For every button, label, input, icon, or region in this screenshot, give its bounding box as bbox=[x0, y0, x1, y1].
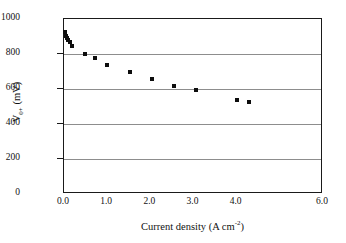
data-point bbox=[235, 98, 239, 102]
y-axis-tick-mark bbox=[57, 158, 63, 159]
data-point bbox=[172, 84, 176, 88]
x-axis-tick-label: 2.0 bbox=[131, 196, 167, 206]
x-axis-tick-label: 3.0 bbox=[175, 196, 211, 206]
data-point bbox=[93, 56, 97, 60]
y-axis-tick-label: 1000 bbox=[0, 13, 20, 23]
data-point bbox=[70, 44, 74, 48]
y-axis-tick-mark bbox=[57, 123, 63, 124]
x-axis-label-exponent: -2 bbox=[235, 219, 241, 227]
data-point bbox=[128, 70, 132, 74]
gridline bbox=[64, 54, 321, 55]
data-point bbox=[194, 88, 198, 92]
data-point bbox=[105, 63, 109, 67]
y-axis-label: V0+ (mV) bbox=[11, 52, 25, 152]
x-axis-tick-label: 0.0 bbox=[45, 196, 81, 206]
chart-figure: 02004006008001000 0.01.02.03.04.06.0 Cur… bbox=[0, 0, 346, 243]
gridline bbox=[64, 89, 321, 90]
x-axis-tick-label: 1.0 bbox=[88, 196, 124, 206]
data-point bbox=[247, 100, 251, 104]
y-axis-tick-mark bbox=[57, 53, 63, 54]
x-axis-label: Current density (A cm-2) bbox=[63, 219, 322, 232]
y-axis-tick-label: 0 bbox=[0, 188, 20, 198]
y-axis-tick-label: 200 bbox=[0, 153, 20, 163]
plot-area bbox=[63, 18, 322, 193]
gridline bbox=[64, 159, 321, 160]
x-axis-tick-label: 4.0 bbox=[218, 196, 254, 206]
gridline bbox=[64, 124, 321, 125]
y-axis-tick-mark bbox=[57, 88, 63, 89]
x-axis-tick-label: 6.0 bbox=[304, 196, 340, 206]
data-point bbox=[83, 52, 87, 56]
y-axis-label-subscript: 0+ bbox=[17, 107, 25, 114]
data-point bbox=[150, 77, 154, 81]
